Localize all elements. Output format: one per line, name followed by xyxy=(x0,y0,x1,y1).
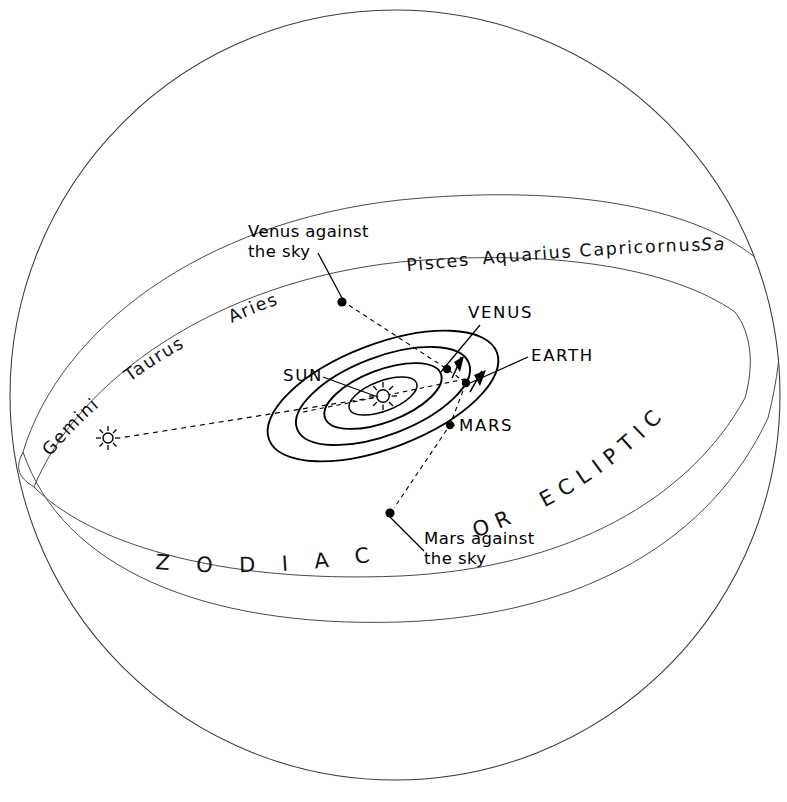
band-label-ecliptic: ECLIPTIC xyxy=(535,400,671,512)
svg-text:Taurus: Taurus xyxy=(120,332,188,386)
constellation-label-aquarius: Aquarius xyxy=(482,241,573,268)
planet-dot-earth xyxy=(462,379,470,387)
zodiac-band-right-wrap xyxy=(735,258,780,418)
sight-lines xyxy=(120,304,470,508)
zodiac-constellation-labels: Gemini Taurus Aries Pisces Aquarius Capr… xyxy=(38,234,726,459)
planet-label-sun: SUN xyxy=(283,366,323,385)
svg-text:ECLIPTIC: ECLIPTIC xyxy=(535,400,671,512)
svg-text:Gemini: Gemini xyxy=(38,393,103,459)
leader-sun xyxy=(323,377,378,397)
sun-disc-on-band xyxy=(103,433,113,443)
callout-venus-line1: Venus against xyxy=(248,222,369,242)
constellation-label-gemini: Gemini xyxy=(38,393,103,459)
sun-symbol-on-zodiac xyxy=(96,426,120,450)
callout-venus-against-sky: Venus against the sky xyxy=(248,222,369,262)
svg-text:Aries: Aries xyxy=(225,289,281,327)
svg-text:Pisces: Pisces xyxy=(406,249,471,275)
constellation-label-taurus: Taurus xyxy=(120,332,188,386)
celestial-sphere-outline xyxy=(10,10,780,780)
sky-dot-mars xyxy=(385,508,394,517)
sky-projection-dots xyxy=(337,297,394,517)
sky-dot-venus xyxy=(337,297,346,306)
callout-mars-line2: the sky xyxy=(424,549,535,569)
constellation-label-capricornus: Capricornus xyxy=(579,235,703,261)
constellation-label-pisces: Pisces xyxy=(406,249,471,275)
zodiac-band-left-wrap xyxy=(19,452,34,487)
planet-label-earth: EARTH xyxy=(531,346,594,365)
planet-label-venus: VENUS xyxy=(468,303,533,322)
celestial-sphere-canvas: Gemini Taurus Aries Pisces Aquarius Capr… xyxy=(0,0,787,802)
zodiac-ecliptic-diagram: Gemini Taurus Aries Pisces Aquarius Capr… xyxy=(0,0,787,802)
callout-venus-line2: the sky xyxy=(248,242,369,262)
svg-text:Capricornus: Capricornus xyxy=(579,235,703,261)
zodiac-band xyxy=(19,195,780,623)
planet-label-mars: MARS xyxy=(459,416,513,435)
band-label-zodiac: Z O D I A C xyxy=(155,542,381,578)
svg-text:Aquarius: Aquarius xyxy=(482,241,573,268)
sun-symbol-center xyxy=(369,382,397,410)
sun-disc-center xyxy=(377,390,389,402)
svg-text:Z O D I A C: Z O D I A C xyxy=(155,542,381,578)
callout-mars-line1: Mars against xyxy=(424,529,535,549)
callout-mars-against-sky: Mars against the sky xyxy=(424,529,535,569)
constellation-label-sagittarius: Sa xyxy=(701,234,726,254)
svg-text:Sa: Sa xyxy=(701,234,726,254)
constellation-label-aries: Aries xyxy=(225,289,281,327)
sun-sight-line xyxy=(120,396,383,438)
leader-mars-sky xyxy=(390,517,424,551)
